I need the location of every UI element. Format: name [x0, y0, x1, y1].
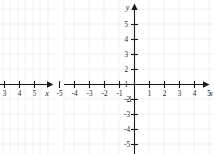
- right-x-tick-label-neg2: -2: [102, 90, 108, 98]
- right-x-tick-label-3: 3: [178, 90, 182, 98]
- right-y-tick-label-2: 2: [124, 66, 128, 74]
- right-y-axis-arrowhead: [131, 4, 137, 11]
- right-x-axis-label: x: [208, 89, 213, 98]
- right-panel: -5 -4 -3 -2 -1 1 2 3 4 5 5 4 3 2 1 -1 -2…: [57, 3, 214, 154]
- figure-canvas: 3 4 5 x: [0, 0, 214, 154]
- right-y-tick-label-neg3: -3: [124, 111, 130, 119]
- right-y-tick-label-3: 3: [124, 51, 128, 59]
- left-panel: 3 4 5 x: [0, 81, 54, 98]
- left-x-tick-label-5: 5: [33, 90, 37, 98]
- right-y-tick-label-1: 1: [124, 81, 128, 89]
- right-y-tick-label-4: 4: [124, 36, 128, 44]
- left-x-axis-label: x: [44, 89, 49, 98]
- right-x-tick-label-1: 1: [148, 90, 152, 98]
- left-x-axis-arrowhead: [47, 81, 54, 87]
- right-x-tick-label-neg5: -5: [57, 90, 63, 98]
- left-panel-grid: [0, 0, 55, 154]
- right-x-tick-label-2: 2: [163, 90, 167, 98]
- right-x-tick-label-neg4: -4: [72, 90, 78, 98]
- two-panel-coordinate-figure: 3 4 5 x: [0, 0, 214, 154]
- right-y-tick-label-neg4: -4: [124, 126, 130, 134]
- right-y-tick-label-neg2: -2: [124, 96, 130, 104]
- right-y-axis-label: y: [125, 3, 130, 12]
- right-y-tick-label-5: 5: [124, 21, 128, 29]
- right-x-tick-label-4: 4: [193, 90, 197, 98]
- right-x-tick-label-neg1: -1: [117, 90, 123, 98]
- right-x-axis-arrowhead: [203, 81, 210, 87]
- right-panel-grid: [62, 0, 214, 154]
- left-x-tick-label-3: 3: [3, 90, 7, 98]
- left-x-tick-label-4: 4: [18, 90, 22, 98]
- right-x-tick-label-neg3: -3: [87, 90, 93, 98]
- right-y-tick-label-neg5: -5: [124, 141, 130, 149]
